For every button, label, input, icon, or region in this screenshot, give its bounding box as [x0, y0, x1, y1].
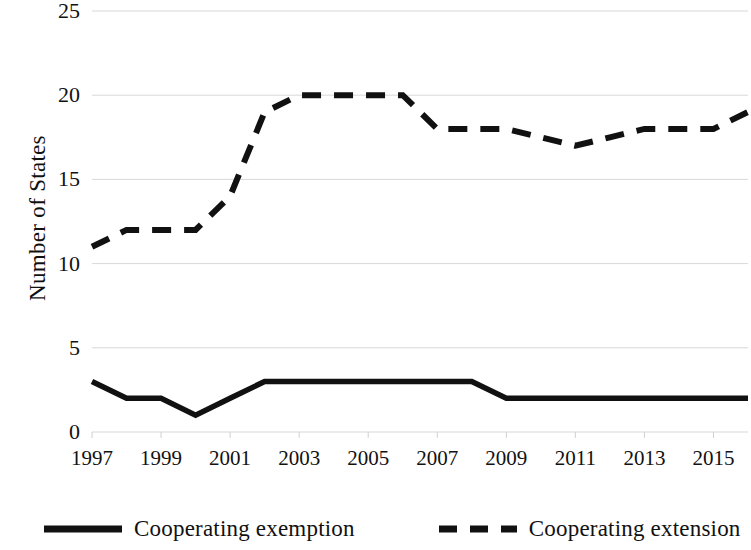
- legend-label-cooperating-exemption: Cooperating exemption: [134, 516, 355, 542]
- legend-label-cooperating-extension: Cooperating extension: [529, 516, 741, 542]
- legend-item-cooperating-extension: Cooperating extension: [437, 516, 741, 542]
- plot-area: [0, 0, 751, 550]
- legend-item-cooperating-exemption: Cooperating exemption: [42, 516, 355, 542]
- chart-legend: Cooperating exemption Cooperating extens…: [0, 508, 751, 550]
- solid-line-icon: [42, 518, 124, 540]
- series-line-cooperating-exemption: [92, 381, 748, 415]
- line-chart: Number of States 0510152025 199719992001…: [0, 0, 751, 550]
- dashed-line-icon: [437, 518, 519, 540]
- series-line-cooperating-extension: [92, 95, 748, 247]
